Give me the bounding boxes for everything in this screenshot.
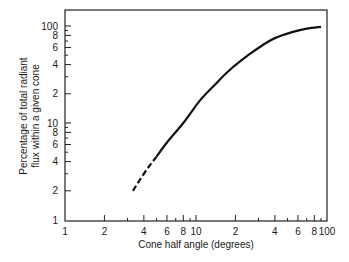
y-tick-label: 6 [52,42,58,53]
y-tick-label: 10 [47,118,59,129]
x-tick-label: 10 [190,226,202,237]
y-axis-title-line-1: Percentage of total radiant [18,57,29,175]
y-axis-ticks: 12468102468100 [41,21,71,226]
y-tick-label: 8 [52,127,58,138]
y-tick-label: 1 [52,215,58,226]
x-tick-label: 100 [319,226,336,237]
y-tick-label: 100 [41,21,58,32]
y-tick-label: 4 [52,59,58,70]
x-tick-label: 8 [181,226,187,237]
x-tick-label: 1 [62,226,68,237]
x-tick-label: 4 [141,226,147,237]
curve-solid [157,27,321,157]
x-tick-label: 6 [295,226,301,237]
x-tick-label: 6 [164,226,170,237]
x-tick-label: 2 [233,226,239,237]
y-axis-title-line-2: flux within a given cone [30,64,41,168]
plot-frame [65,10,327,221]
y-tick-label: 2 [52,185,58,196]
curve-dashed-extrapolation [133,157,157,191]
x-axis-title: Cone half angle (degrees) [138,239,254,250]
x-tick-label: 2 [102,226,108,237]
chart: 12468102468100 12468102468100 Cone half … [0,0,349,262]
data-series [133,27,321,191]
y-tick-label: 8 [52,30,58,41]
x-tick-label: 4 [272,226,278,237]
x-tick-label: 8 [312,226,318,237]
y-tick-label: 4 [52,156,58,167]
x-axis-ticks: 12468102468100 [62,215,336,237]
y-tick-label: 2 [52,88,58,99]
y-tick-label: 6 [52,139,58,150]
y-axis-title: Percentage of total radiant flux within … [18,57,41,175]
